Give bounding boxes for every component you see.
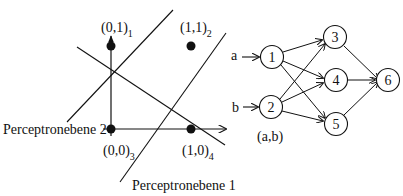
plane-2-label: Perceptronebene 2 (3, 122, 107, 137)
input-b-label: b (232, 100, 239, 115)
svg-text:3: 3 (332, 30, 339, 45)
point-label-0-0: (0,0)3 (103, 143, 135, 162)
svg-text:4: 4 (333, 73, 340, 88)
node-1: 1 (261, 46, 284, 69)
point-label-0-1: (0,1)1 (101, 20, 133, 39)
point-0-1 (107, 42, 116, 51)
svg-text:2: 2 (268, 100, 275, 115)
point-0-0 (107, 125, 116, 134)
edge-2-5 (282, 111, 323, 121)
edge-2-4 (282, 83, 323, 102)
edge-3-6 (344, 46, 378, 79)
node-4: 4 (325, 69, 348, 92)
edge-1-4 (283, 61, 323, 78)
node-5: 5 (325, 113, 348, 136)
svg-text:6: 6 (385, 73, 392, 88)
point-label-1-1: (1,1)2 (180, 20, 212, 39)
point-1-1 (187, 42, 196, 51)
network-diagram: 1 2 3 4 5 6 a b (a,b) (231, 26, 400, 146)
node-6: 6 (377, 69, 400, 92)
edge-1-5 (281, 65, 325, 118)
svg-text:5: 5 (333, 117, 340, 132)
perceptron-xor-figure: (0,1)1 (1,1)2 (0,0)3 (1,0)4 Perceptroneb… (0, 0, 403, 196)
plane-1-label: Perceptronebene 1 (132, 178, 236, 193)
input-pair-label: (a,b) (257, 129, 283, 145)
svg-text:1: 1 (269, 50, 276, 65)
edge-5-6 (344, 82, 378, 115)
edge-1-3 (283, 40, 322, 52)
input-a-label: a (231, 48, 238, 63)
node-3: 3 (324, 26, 347, 49)
node-2: 2 (260, 96, 283, 119)
point-label-1-0: (1,0)4 (182, 143, 214, 162)
input-space-plot: (0,1)1 (1,1)2 (0,0)3 (1,0)4 Perceptroneb… (3, 10, 236, 193)
point-1-0 (187, 125, 196, 134)
